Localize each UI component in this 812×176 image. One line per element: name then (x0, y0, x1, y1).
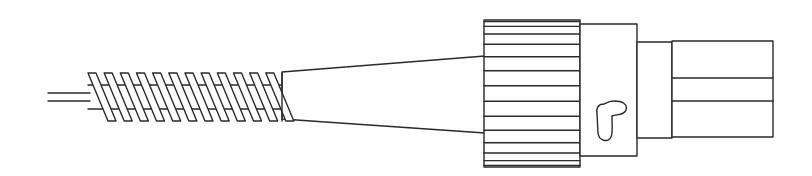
ferrule-sleeve (637, 42, 672, 138)
connector-drawing (0, 0, 812, 176)
connector-body (580, 24, 637, 156)
cable (48, 93, 90, 101)
boot-cone (282, 56, 485, 133)
strain-relief-spring (88, 73, 294, 121)
connector-diagram: fiber-optic connector side view (0, 0, 812, 176)
knurled-nut (484, 20, 580, 167)
ferrule-tip (672, 41, 773, 137)
